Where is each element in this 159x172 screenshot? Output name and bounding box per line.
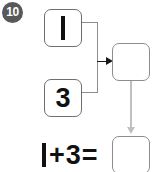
equation-second-term: 3 bbox=[66, 142, 81, 169]
connector-line-bottom bbox=[82, 92, 98, 93]
sum-answer-box[interactable] bbox=[112, 43, 150, 81]
equation-row: 1 + 3 = bbox=[42, 138, 99, 172]
addend-box-top: 1 bbox=[44, 9, 82, 47]
equation-answer-value bbox=[113, 137, 149, 172]
connector-line-top bbox=[82, 22, 98, 23]
connector-line-vertical bbox=[97, 22, 98, 93]
equation-first-term-bar-glyph bbox=[42, 143, 46, 167]
down-arrow-shaft bbox=[130, 81, 132, 129]
equation-answer-box[interactable] bbox=[112, 136, 150, 172]
equation-operator: + bbox=[49, 142, 65, 169]
worksheet-problem: 10 1 3 1 + 3 = bbox=[0, 0, 159, 172]
sum-answer-value bbox=[113, 44, 149, 80]
down-arrow-icon bbox=[127, 127, 135, 134]
digit-one-bar-glyph bbox=[61, 16, 65, 40]
equation-equals-sign: = bbox=[82, 142, 98, 169]
addend-box-bottom: 3 bbox=[44, 79, 82, 117]
problem-number-badge: 10 bbox=[2, 2, 23, 23]
addend-bottom-value: 3 bbox=[45, 80, 81, 116]
